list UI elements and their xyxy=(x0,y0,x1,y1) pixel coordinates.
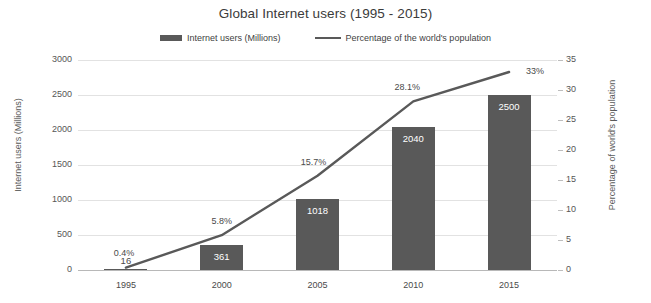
line-value-label-1995: 0.4% xyxy=(114,248,135,258)
y-axis-left-tick: 1500 xyxy=(52,160,72,169)
y-axis-left-tick: 0 xyxy=(67,265,72,274)
x-axis-labels: 19952000200520102015 xyxy=(78,280,557,296)
y-axis-left-tick: 2500 xyxy=(52,90,72,99)
legend-item-percentage: Percentage of the world's population xyxy=(315,33,491,43)
legend-label-internet-users: Internet users (Millions) xyxy=(187,33,281,43)
y-axis-right-tick: 35 xyxy=(566,55,576,64)
plot-area: 16361101820402500 0.4%5.8%15.7%28.1%33% xyxy=(78,60,557,270)
x-axis-label-2015: 2015 xyxy=(499,280,519,290)
y-axis-right-tick: 20 xyxy=(566,145,576,154)
gridline xyxy=(78,270,557,271)
y-axis-right-tick-mark xyxy=(558,240,563,241)
y-axis-left: 300025002000150010005000 xyxy=(28,60,72,270)
percentage-line[interactable] xyxy=(126,72,509,268)
y-axis-right: 35302520151050 xyxy=(566,60,596,270)
y-axis-right-tick: 25 xyxy=(566,115,576,124)
y-axis-right-tick-mark xyxy=(558,180,563,181)
y-axis-right-tick-mark xyxy=(558,90,563,91)
y-axis-right-title: Percentage of world's population xyxy=(607,65,617,225)
y-axis-right-tick: 15 xyxy=(566,175,576,184)
chart-title: Global Internet users (1995 - 2015) xyxy=(0,6,651,21)
y-axis-right-tick: 0 xyxy=(566,265,571,274)
line-swatch-icon xyxy=(315,37,341,39)
x-axis-label-1995: 1995 xyxy=(116,280,136,290)
y-axis-left-title: Internet users (Millions) xyxy=(13,80,23,210)
y-axis-right-tick: 5 xyxy=(566,235,571,244)
chart-legend: Internet users (Millions) Percentage of … xyxy=(0,33,651,43)
line-value-label-2000: 5.8% xyxy=(211,216,232,226)
bar-swatch-icon xyxy=(160,35,182,41)
y-axis-left-tick: 2000 xyxy=(52,125,72,134)
y-axis-right-tick-mark xyxy=(558,210,563,211)
line-value-label-2005: 15.7% xyxy=(301,157,327,167)
legend-label-percentage: Percentage of the world's population xyxy=(346,33,491,43)
x-axis-label-2005: 2005 xyxy=(307,280,327,290)
y-axis-left-tick: 500 xyxy=(57,230,72,239)
line-value-label-2010: 28.1% xyxy=(395,82,421,92)
y-axis-right-tick: 10 xyxy=(566,205,576,214)
y-axis-right-tick-mark xyxy=(558,150,563,151)
line-value-label-2015: 33% xyxy=(526,66,544,76)
y-axis-right-tick-mark xyxy=(558,120,563,121)
y-axis-left-tick: 1000 xyxy=(52,195,72,204)
y-axis-right-tick-mark xyxy=(558,60,563,61)
y-axis-right-tick-mark xyxy=(558,270,563,271)
x-axis-label-2010: 2010 xyxy=(403,280,423,290)
legend-item-internet-users: Internet users (Millions) xyxy=(160,33,281,43)
y-axis-left-tick: 3000 xyxy=(52,55,72,64)
y-axis-right-tick: 30 xyxy=(566,85,576,94)
x-axis-label-2000: 2000 xyxy=(212,280,232,290)
chart-container: Global Internet users (1995 - 2015) Inte… xyxy=(0,0,651,303)
